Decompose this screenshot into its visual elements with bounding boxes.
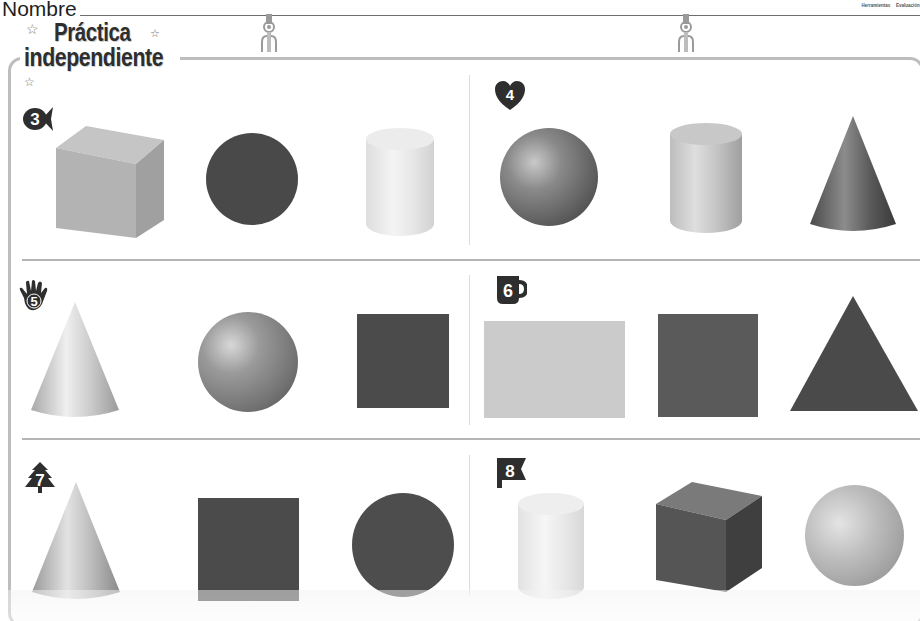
flag-icon: 8 [496,457,528,489]
cylinder-shape[interactable] [366,128,434,236]
column-divider [469,75,470,245]
name-input-line[interactable] [80,15,920,16]
fish-icon: 3 [22,103,54,135]
cylinder-shape[interactable] [670,123,742,233]
row-divider [22,259,920,261]
star-icon: ☆ [26,22,39,36]
svg-text:6: 6 [503,281,513,301]
rectangle-shape[interactable] [484,321,625,418]
star-icon: ☆ [150,28,160,39]
column-divider [469,275,470,425]
square-shape[interactable] [357,314,449,408]
title-independiente: independiente [24,42,163,73]
cone-shape[interactable] [31,482,121,602]
cone-shape[interactable] [809,116,897,234]
cone-shape[interactable] [30,302,120,420]
circle-shape[interactable] [206,133,298,225]
mug-icon: 6 [495,274,527,306]
page-bottom-edge [8,590,920,621]
svg-text:8: 8 [505,462,514,481]
cube-shape[interactable] [56,126,164,238]
tab-evaluacion[interactable]: Evaluación [896,2,920,8]
cylinder-shape[interactable] [518,493,584,599]
svg-text:3: 3 [30,110,39,129]
svg-text:4: 4 [506,86,515,103]
cube-shape[interactable] [656,482,762,592]
heart-icon: 4 [494,80,526,112]
header-tabs: Herramientas Evaluación [857,2,920,8]
row-divider [22,438,920,440]
binder-clip-icon [675,14,697,54]
sphere-shape[interactable] [805,485,904,586]
circle-shape[interactable] [352,493,454,597]
sphere-shape[interactable] [500,128,598,226]
sphere-shape[interactable] [198,312,298,412]
binder-clip-icon [258,14,280,54]
triangle-shape[interactable] [790,296,918,411]
tab-herramientas[interactable]: Herramientas [862,2,891,8]
column-divider [469,455,470,595]
star-icon: ☆ [24,76,35,88]
square-shape[interactable] [198,498,299,601]
square-shape[interactable] [658,314,758,417]
